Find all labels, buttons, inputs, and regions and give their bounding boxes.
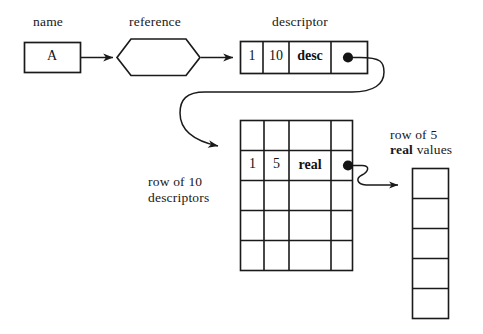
row-of-5-values-label: row of 5 real values xyxy=(390,127,452,157)
grid-row-4[interactable] xyxy=(241,241,352,270)
grid-row-1[interactable] xyxy=(241,151,352,180)
diagram-canvas: name reference descriptor A 1 10 desc 1 … xyxy=(0,0,483,334)
grid-row-0[interactable] xyxy=(241,121,352,150)
descriptor-cell-bound[interactable] xyxy=(263,42,289,73)
row-of-5-suffix: values xyxy=(417,142,453,157)
reference-label: reference xyxy=(129,14,181,29)
values-cell-3[interactable] xyxy=(413,259,448,288)
values-cell-4[interactable] xyxy=(413,289,448,318)
values-cell-2[interactable] xyxy=(413,229,448,258)
descriptor-cell-pointer[interactable] xyxy=(331,42,368,73)
name-label: name xyxy=(33,14,63,29)
values-cell-1[interactable] xyxy=(413,199,448,228)
row-of-10-descriptors-label: row of 10 descriptors xyxy=(148,174,209,206)
descriptor-label: descriptor xyxy=(272,14,328,29)
descriptor-cell-type[interactable] xyxy=(289,42,331,73)
descriptor-cell-length[interactable] xyxy=(241,42,263,73)
row-of-5-bold-word: real xyxy=(390,142,413,157)
row-of-5-line-1: row of 5 xyxy=(390,127,437,142)
name-box[interactable] xyxy=(24,42,81,73)
grid-row-2[interactable] xyxy=(241,181,352,210)
arrow-grid-to-values xyxy=(353,166,398,186)
values-cell-0[interactable] xyxy=(413,169,448,198)
reference-hexagon[interactable] xyxy=(117,38,201,76)
grid-row-3[interactable] xyxy=(241,211,352,240)
